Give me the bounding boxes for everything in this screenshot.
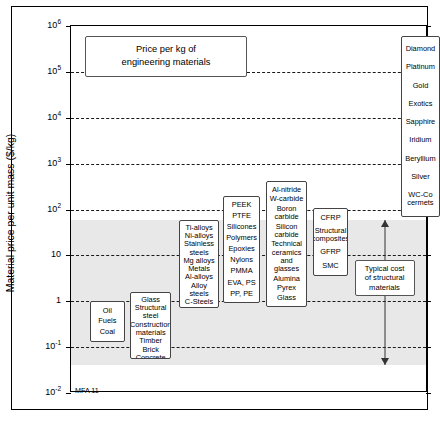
material-box-precious-materials: DiamondPlatinumGoldExoticsSapphireIridiu… (401, 36, 440, 216)
gridline (71, 118, 426, 119)
y-tick-mark (426, 301, 431, 302)
y-tick-label: 10 (27, 250, 61, 259)
material-item: Coal (100, 328, 115, 336)
y-tick-mark (66, 301, 71, 302)
y-tick-mark (66, 72, 71, 73)
credit-label: MFA 11 (75, 386, 99, 395)
material-item: Diamond (406, 45, 436, 53)
material-box-metals: Ti-alloysNi-alloysStainless steelsMg all… (179, 220, 218, 309)
typical-cost-label-line-0: Typical cost (358, 264, 412, 273)
material-item: Structural steel (133, 304, 168, 321)
arrow-head-up-icon (381, 220, 389, 227)
material-item: Technical ceramics and glasses (269, 240, 304, 273)
material-item: PMMA (231, 267, 253, 275)
y-tick-label: 10-2 (27, 388, 61, 397)
material-item: Beryllium (405, 155, 435, 163)
plot-area: OilFuelsCoalGlassStructural steelConstru… (70, 25, 427, 392)
material-item: EVA, PS (227, 279, 255, 287)
y-tick-mark (426, 393, 431, 394)
material-item: SMC (322, 262, 338, 270)
material-item: Pyrex (277, 284, 296, 292)
material-item: Silicon carbide (269, 223, 304, 240)
material-item: Silicones (227, 223, 257, 231)
material-item: Boron carbide (269, 205, 304, 222)
material-item: Silver (411, 173, 429, 181)
material-item: PEEK (232, 201, 252, 209)
material-item: Fuels (98, 317, 116, 325)
material-item: CFRP (320, 214, 340, 222)
material-item: Oil (103, 307, 112, 315)
material-item: Alloy steels (182, 282, 215, 299)
material-item: W-carbide (270, 195, 304, 203)
gridline (71, 347, 426, 348)
material-item: Structural composites (313, 227, 349, 244)
y-tick-label: 102 (27, 204, 61, 213)
y-tick-mark (426, 255, 431, 256)
arrow-head-down-icon (381, 358, 389, 365)
y-axis-label: Material price per unit mass ($/kg) (4, 134, 16, 293)
material-item: Al-nitride (272, 186, 301, 194)
material-item: PTFE (232, 212, 251, 220)
material-box-technical-ceramics-and-glasses: Al-nitrideW-carbideBoron carbideSilicon … (266, 181, 307, 307)
material-item: Stainless steels (182, 240, 215, 257)
gridline (71, 164, 426, 165)
chart-figure: OilFuelsCoalGlassStructural steelConstru… (0, 0, 440, 423)
y-tick-label: 1 (27, 296, 61, 305)
material-box-structural-composites: CFRPStructural compositesGFRPSMC (313, 208, 349, 277)
material-item: Epoxies (228, 245, 254, 253)
y-tick-mark (66, 118, 71, 119)
chart-title-line-1: engineering materials (90, 56, 242, 69)
y-tick-mark (426, 347, 431, 348)
material-item: Iridium (409, 136, 431, 144)
material-item: Concrete (136, 354, 166, 359)
y-tick-mark (66, 347, 71, 348)
chart-title-line-0: Price per kg of (90, 43, 242, 56)
typical-cost-label: Typical costof structuralmaterials (355, 260, 415, 296)
figure-frame: OilFuelsCoalGlassStructural steelConstru… (11, 6, 428, 410)
material-item: Sapphire (406, 118, 436, 126)
material-box-construction-materials: GlassStructural steelConstruction materi… (130, 292, 171, 359)
material-item: Exotics (409, 100, 433, 108)
material-item: Gold (413, 82, 429, 90)
y-tick-label: 105 (27, 66, 61, 75)
material-item: Platinum (406, 63, 435, 71)
y-tick-label: 10-1 (27, 342, 61, 351)
y-tick-mark (66, 26, 71, 27)
material-item: Construction materials (130, 321, 171, 338)
chart-title-box: Price per kg ofengineering materials (85, 36, 247, 77)
y-tick-mark (66, 210, 71, 211)
y-tick-mark (426, 26, 431, 27)
y-tick-mark (66, 164, 71, 165)
material-item: Alumina (273, 275, 300, 283)
material-box-polymers: PEEKPTFESiliconesPolymersEpoxiesNylonsPM… (223, 196, 261, 304)
y-tick-label: 103 (27, 158, 61, 167)
material-box-fuels: OilFuelsCoal (90, 301, 126, 342)
typical-cost-label-line-1: of structural (358, 273, 412, 282)
y-tick-label: 104 (27, 112, 61, 121)
material-item: Nylons (230, 256, 253, 264)
material-item: WC-Co cermets (404, 191, 438, 208)
typical-cost-label-line-2: materials (358, 283, 412, 292)
y-tick-mark (66, 393, 71, 394)
y-tick-label: 106 (27, 21, 61, 30)
material-item: Glass (277, 294, 296, 302)
material-item: GFRP (320, 248, 341, 256)
material-item: PP, PE (230, 290, 253, 298)
material-item: Polymers (226, 234, 257, 242)
y-tick-mark (66, 255, 71, 256)
